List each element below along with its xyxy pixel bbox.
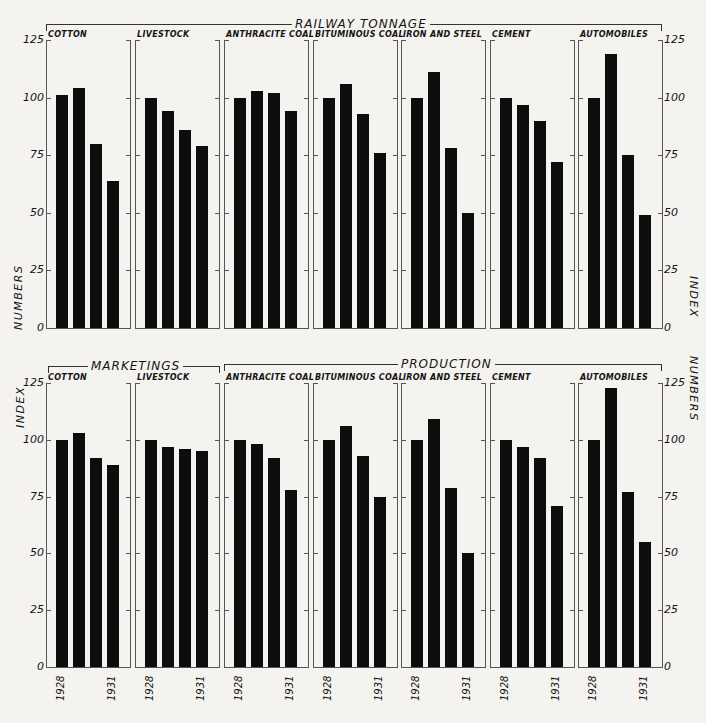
y-tick [578,155,583,156]
marketings-production-panel [313,383,398,668]
panel-cap [402,40,406,41]
y-tick [570,213,575,214]
bar-1931 [374,153,386,328]
y-tick [393,610,398,611]
y-tick [224,98,229,99]
y-tick [126,440,131,441]
y-tick [313,440,318,441]
panel-cap [215,40,219,41]
bar-1931 [462,213,474,328]
panel-cap [491,40,495,41]
panel-cap [658,40,662,41]
bar-1929 [73,433,85,667]
y-axis-label-left: 25 [30,264,44,275]
y-axis-label-right: 125 [664,34,685,45]
panel-label: COTTON [48,30,87,39]
y-tick [401,497,406,498]
bar-1928 [500,440,512,667]
y-tick [393,440,398,441]
railway-tonnage-panel [46,40,131,329]
y-axis-label-left: 25 [30,604,44,615]
bar-1929 [340,84,352,328]
y-axis-label-left: 0 [37,661,44,672]
year-label: 1931 [550,676,561,701]
y-tick [490,213,495,214]
panel-cap [47,40,51,41]
bar-1931 [374,497,386,667]
year-label: 1928 [410,676,421,701]
y-tick [135,270,140,271]
bar-1930 [268,93,280,328]
y-tick [304,155,309,156]
y-axis-label-left: 75 [30,149,44,160]
bar-1931 [107,181,119,328]
y-tick [570,155,575,156]
production-label: PRODUCTION [398,358,495,370]
bar-1928 [56,95,68,328]
y-tick [215,610,220,611]
panel-cap [658,383,662,384]
y-tick [490,497,495,498]
bar-1930 [622,155,634,328]
y-tick [135,440,140,441]
y-tick [313,553,318,554]
y-tick [313,98,318,99]
y-tick [215,440,220,441]
bar-1929 [517,447,529,667]
y-tick [313,270,318,271]
panel-cap [126,40,130,41]
y-tick [135,610,140,611]
y-tick [578,440,583,441]
panel-label: LIVESTOCK [137,30,190,39]
y-tick [401,610,406,611]
panel-cap [314,40,318,41]
railway-tonnage-panel [490,40,575,329]
bar-1929 [517,105,529,328]
y-axis-label-left: 50 [30,207,44,218]
y-axis-label-left: 50 [30,547,44,558]
y-tick [658,155,663,156]
y-tick [490,440,495,441]
panel-label: BITUMINOUS COAL [315,373,404,382]
y-tick [215,213,220,214]
panel-cap [393,40,397,41]
railway-tonnage-panel [135,40,220,329]
y-tick [126,98,131,99]
bar-1930 [179,130,191,328]
bar-1930 [268,458,280,667]
y-tick [46,497,51,498]
y-tick [46,610,51,611]
y-axis-label-left: 75 [30,491,44,502]
y-tick [46,440,51,441]
y-tick [215,98,220,99]
right-axis-title-bottom: NUMBERS [687,356,700,421]
panel-label: AUTOMOBILES [580,373,648,382]
y-tick [658,213,663,214]
year-label: 1931 [106,676,117,701]
y-axis-label-right: 50 [664,547,678,558]
panel-cap [481,40,485,41]
y-tick [401,155,406,156]
y-tick [401,270,406,271]
panel-label: ANTHRACITE COAL [226,373,314,382]
y-tick [215,155,220,156]
panel-cap [579,383,583,384]
y-tick [46,98,51,99]
bar-1928 [145,98,157,328]
bar-1929 [428,72,440,328]
panel-cap [314,383,318,384]
panel-cap [304,40,308,41]
y-tick [401,213,406,214]
y-tick [393,497,398,498]
panel-cap [402,383,406,384]
panel-cap [136,383,140,384]
y-axis-label-right: 25 [664,604,678,615]
marketings-production-panel [46,383,131,668]
panel-cap [215,383,219,384]
y-tick [570,98,575,99]
year-label: 1931 [461,676,472,701]
y-tick [658,553,663,554]
bar-1929 [605,54,617,328]
panel-label: IRON AND STEEL [403,373,482,382]
bar-1931 [107,465,119,667]
